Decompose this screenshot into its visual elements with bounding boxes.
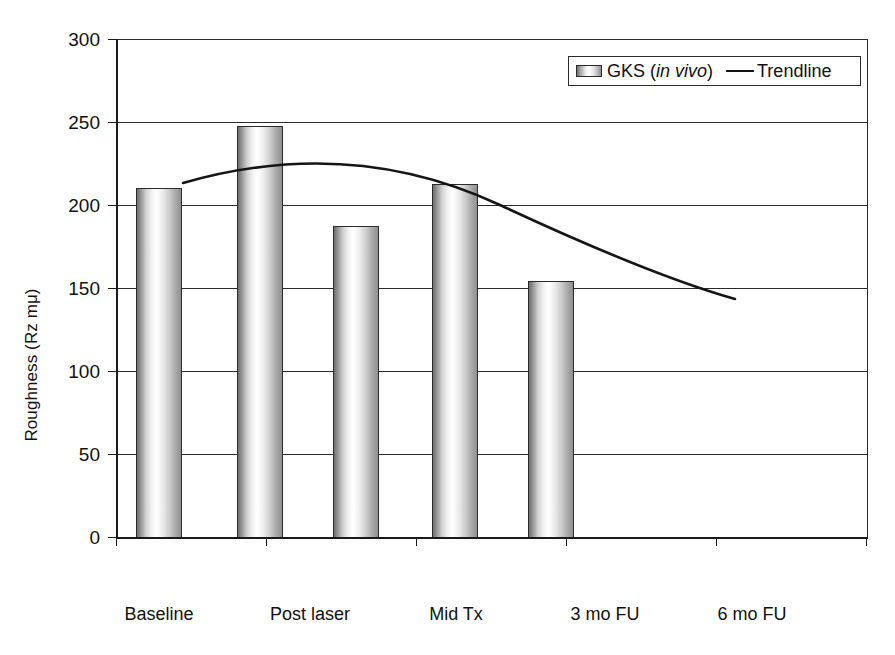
bar-post-laser <box>237 126 283 538</box>
gridline-50 <box>116 454 868 455</box>
y-tick-label-200: 200 <box>46 196 100 215</box>
y-tick-label-150: 150 <box>46 279 100 298</box>
plot-right-border <box>867 39 868 538</box>
x-tick-label-post-laser: Post laser <box>240 605 380 623</box>
y-tick-label-50: 50 <box>46 445 100 464</box>
y-tick-label-250: 250 <box>46 113 100 132</box>
legend-bar-swatch-icon <box>576 65 602 77</box>
legend-label-gks-prefix: GKS ( <box>607 61 656 81</box>
x-tick-label-baseline: Baseline <box>89 605 229 623</box>
x-tick-label-6-mo-fu: 6 mo FU <box>682 605 822 623</box>
legend-label-trendline: Trendline <box>757 62 831 80</box>
legend-label-gks: GKS (in vivo) <box>607 62 713 80</box>
x-tick-label-3-mo-fu: 3 mo FU <box>535 605 675 623</box>
bar-6-mo-fu <box>528 281 574 538</box>
legend-line-icon <box>726 70 754 72</box>
gridline-300 <box>116 39 868 40</box>
gridline-100 <box>116 371 868 372</box>
legend-label-gks-suffix: ) <box>707 61 713 81</box>
bar-baseline <box>136 188 182 538</box>
bar-3-mo-fu <box>432 184 478 538</box>
x-tick-label-mid-tx: Mid Tx <box>386 605 526 623</box>
x-tick-mark-4 <box>716 538 717 546</box>
y-axis-title: Roughness (Rz mμ) <box>22 215 42 515</box>
legend-entry-gks: GKS (in vivo) <box>576 62 713 80</box>
x-tick-mark-0 <box>116 538 117 546</box>
x-tick-mark-5 <box>866 538 867 546</box>
chart-container: Roughness (Rz mμ) 300 250 200 150 100 50… <box>0 0 895 655</box>
x-tick-mark-3 <box>566 538 567 546</box>
gridline-150 <box>116 288 868 289</box>
y-axis-line <box>116 39 118 538</box>
bar-mid-tx <box>333 226 379 538</box>
x-tick-mark-1 <box>266 538 267 546</box>
chart-legend: GKS (in vivo) Trendline <box>568 56 861 86</box>
y-tick-label-0: 0 <box>46 528 100 547</box>
gridline-250 <box>116 122 868 123</box>
legend-entry-trendline: Trendline <box>726 62 831 80</box>
y-tick-label-300: 300 <box>46 30 100 49</box>
x-axis-line <box>116 537 868 539</box>
gridline-200 <box>116 205 868 206</box>
y-tick-label-100: 100 <box>46 362 100 381</box>
legend-label-gks-italic: in vivo <box>656 61 707 81</box>
x-tick-mark-2 <box>416 538 417 546</box>
